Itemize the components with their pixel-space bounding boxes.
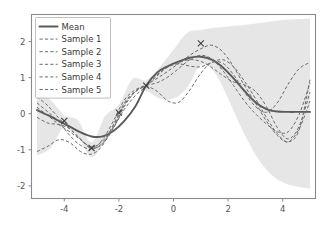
legend-label-mean: Mean: [62, 22, 85, 32]
chart-canvas: -4-2024 -2-1012 MeanSample 1Sample 2Samp…: [0, 0, 328, 226]
legend-label-sample-4: Sample 4: [62, 72, 102, 82]
legend-label-sample-1: Sample 1: [62, 34, 102, 44]
x-tick-label: 4: [280, 204, 285, 214]
legend-label-sample-2: Sample 2: [62, 47, 102, 57]
y-tick-label: 0: [20, 109, 25, 119]
y-tick-label: 2: [20, 37, 25, 47]
x-tick-label: 0: [171, 204, 176, 214]
x-tick-label: -4: [60, 204, 68, 214]
chart-legend: MeanSample 1Sample 2Sample 3Sample 4Samp…: [36, 18, 111, 99]
legend-label-sample-5: Sample 5: [62, 85, 102, 95]
x-tick-label: 2: [225, 204, 230, 214]
figure-container: -4-2024 -2-1012 MeanSample 1Sample 2Samp…: [0, 0, 328, 226]
x-tick-label: -2: [115, 204, 123, 214]
y-tick-label: 1: [20, 73, 25, 83]
y-tick-label: -2: [17, 181, 25, 191]
legend-label-sample-3: Sample 3: [62, 59, 102, 69]
y-tick-label: -1: [17, 145, 25, 155]
